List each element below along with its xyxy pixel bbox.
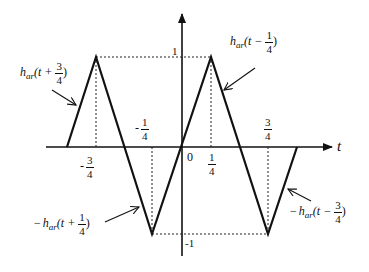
y-tick-1: 1 [172,46,178,57]
pointer-arrow-3 [105,207,139,222]
curve-label-h-ar-t-plus-3-4: har(t + 34) [20,61,67,86]
origin-label: 0 [187,151,193,163]
x-tick-1-4: 14 [208,152,216,177]
x-tick-3-4: 34 [264,117,272,142]
t-axis-label: t [337,139,341,154]
pointer-arrow-1 [52,90,76,105]
curve-label-neg-h-ar-t-minus-3-4: −har(t − 34) [290,200,346,225]
curve-label-neg-h-ar-t-plus-1-4: −har(t + 14) [34,212,90,237]
x-tick-minus-1-4: -14 [135,117,149,142]
x-tick-minus-3-4: -34 [80,155,94,180]
curve-label-h-ar-t-minus-1-4: har(t − 14) [230,30,277,55]
pointer-arrow-2 [224,68,255,90]
y-tick-minus-1: -1 [185,238,194,249]
